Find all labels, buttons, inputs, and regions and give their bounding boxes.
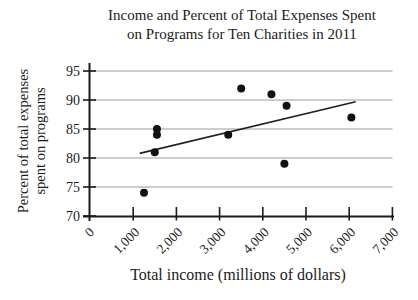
chart-figure: Income and Percent of Total Expenses Spe…	[0, 0, 418, 300]
data-point-2	[151, 148, 159, 156]
data-point-5	[224, 131, 232, 139]
y-tick-label-70: 70	[66, 209, 80, 224]
data-point-8	[283, 102, 291, 110]
x-tick-label-7000: 7,000	[369, 224, 401, 256]
y-tick-label-80: 80	[66, 151, 80, 166]
data-point-1	[140, 189, 148, 197]
data-point-6	[237, 84, 245, 92]
trend-line	[140, 102, 356, 154]
x-tick-label-1000: 1,000	[110, 224, 142, 256]
x-axis-label: Total income (millions of dollars)	[70, 266, 406, 284]
y-tick-label-90: 90	[66, 93, 80, 108]
y-tick-label-95: 95	[66, 64, 80, 79]
x-tick-label-0: 0	[82, 224, 98, 240]
x-tick-label-2000: 2,000	[153, 224, 185, 256]
y-tick-label-75: 75	[66, 180, 80, 195]
data-point-7	[267, 90, 275, 98]
data-point-10	[347, 113, 355, 121]
data-point-9	[280, 160, 288, 168]
y-tick-label-85: 85	[66, 122, 80, 137]
x-tick-label-3000: 3,000	[197, 224, 229, 256]
scatter-plot: 70758085909501,0002,0003,0004,0005,0006,…	[0, 0, 418, 300]
x-tick-label-4000: 4,000	[240, 224, 272, 256]
x-tick-label-6000: 6,000	[326, 224, 358, 256]
data-point-4	[153, 125, 161, 133]
x-tick-label-5000: 5,000	[283, 224, 315, 256]
